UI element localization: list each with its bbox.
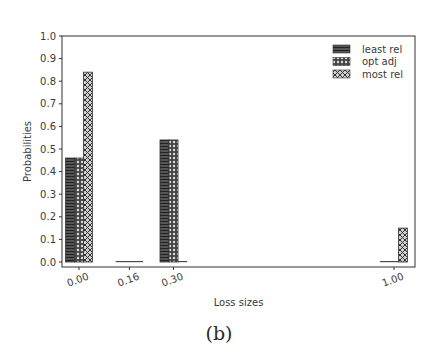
legend-label: most rel	[362, 69, 403, 80]
bar-least-rel	[381, 261, 390, 262]
legend-label: least rel	[362, 44, 402, 55]
x-tick-label: 0.00	[65, 271, 90, 289]
legend-label: opt adj	[362, 56, 397, 67]
legend-swatch	[333, 45, 350, 53]
bar-least-rel	[66, 158, 75, 262]
bar-opt-adj	[390, 261, 399, 262]
y-tick-label: 0.6	[40, 121, 56, 132]
bar-opt-adj	[169, 140, 178, 262]
legend-swatch	[333, 70, 350, 78]
bar-opt-adj	[75, 158, 84, 262]
y-tick-label: 0.2	[40, 211, 56, 222]
y-tick-label: 0.9	[40, 53, 56, 64]
bar-most-rel	[134, 261, 143, 262]
y-tick-label: 0.5	[40, 144, 56, 155]
y-tick-label: 0.1	[40, 234, 56, 245]
x-axis-label: Loss sizes	[214, 297, 264, 308]
figure-caption: (b)	[0, 322, 438, 344]
bar-most-rel	[399, 228, 408, 262]
y-tick-label: 0.3	[40, 189, 56, 200]
bar-most-rel	[178, 261, 187, 262]
plot-area: 0.00.10.20.30.40.50.60.70.80.91.00.000.1…	[22, 31, 415, 309]
legend: least relopt adjmost rel	[333, 44, 403, 80]
x-tick-label: 1.00	[380, 271, 405, 289]
bar-opt-adj	[125, 261, 134, 262]
x-tick-label: 0.16	[116, 271, 141, 289]
legend-swatch	[333, 58, 350, 66]
y-tick-label: 0.4	[40, 166, 56, 177]
x-tick-label: 0.30	[160, 271, 185, 289]
y-axis-label: Probabilities	[22, 121, 33, 182]
y-tick-label: 1.0	[40, 31, 56, 42]
bar-most-rel	[84, 72, 93, 262]
y-tick-label: 0.8	[40, 76, 56, 87]
y-tick-label: 0.0	[40, 257, 56, 268]
bar-chart: 0.00.10.20.30.40.50.60.70.80.91.00.000.1…	[0, 0, 438, 364]
y-tick-label: 0.7	[40, 98, 56, 109]
bar-least-rel	[116, 261, 125, 262]
bar-least-rel	[160, 140, 169, 262]
